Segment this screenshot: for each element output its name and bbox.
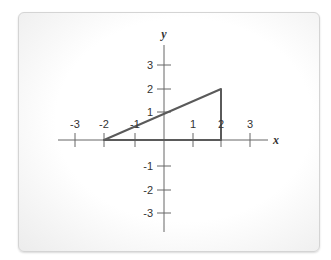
y-tick-label: 3 [147,59,153,71]
triangle-shape [104,89,221,140]
x-tick-label: -2 [99,118,109,130]
y-axis-label: y [159,27,167,41]
y-tick-label: -1 [143,160,153,172]
y-tick-label: -3 [143,207,153,219]
x-tick-label: -1 [130,118,140,130]
x-tick-label: 3 [247,118,253,130]
y-tick-label: 2 [147,83,153,95]
coordinate-plane: -3 -2 -1 1 2 3 3 2 1 -1 -2 -3 x y [0,0,331,260]
x-axis-label: x [272,133,279,147]
x-tick-label: 1 [190,118,196,130]
y-tick-label: -2 [143,184,153,196]
x-tick-label: -3 [70,118,80,130]
x-tick-label: 2 [218,118,224,130]
y-tick-label: 1 [147,106,153,118]
